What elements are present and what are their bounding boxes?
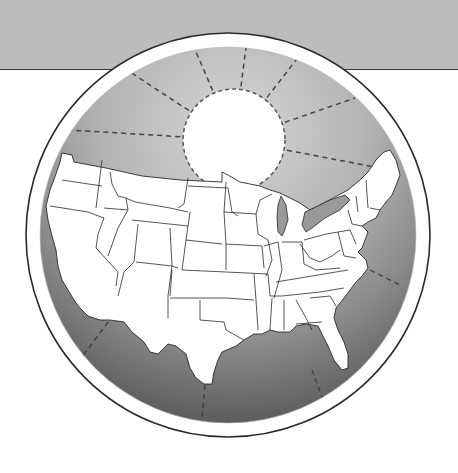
sun [183,89,285,191]
us-sun-globe-illustration [0,0,458,473]
